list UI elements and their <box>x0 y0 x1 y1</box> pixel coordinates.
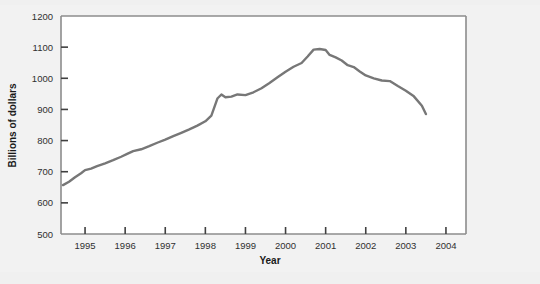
x-tick-label: 1997 <box>155 240 176 251</box>
x-tick-label: 2004 <box>435 240 456 251</box>
y-tick-label: 600 <box>37 197 53 208</box>
y-tick-label: 900 <box>37 104 53 115</box>
y-tick-label: 1000 <box>32 73 53 84</box>
y-tick-label: 500 <box>37 229 53 240</box>
y-tick-label: 1200 <box>32 11 53 22</box>
y-tick-label: 700 <box>37 166 53 177</box>
x-axis-tick-labels: 1995199619971998199920002001200220032004 <box>74 240 456 251</box>
x-tick-label: 1995 <box>74 240 95 251</box>
x-tick-label: 2003 <box>395 240 416 251</box>
chart-figure: 500600700800900100011001200 199519961997… <box>0 0 540 284</box>
x-tick-label: 1998 <box>195 240 216 251</box>
x-tick-label: 1999 <box>235 240 256 251</box>
y-tick-label: 800 <box>37 135 53 146</box>
plot-area-background <box>61 16 466 234</box>
y-axis-label-text: Billions of dollars <box>8 83 19 167</box>
x-axis-label-text: Year <box>0 255 540 266</box>
y-axis-label: Billions of dollars <box>2 0 24 250</box>
y-axis-tick-labels: 500600700800900100011001200 <box>32 11 53 240</box>
x-tick-label: 2002 <box>355 240 376 251</box>
y-tick-label: 1100 <box>33 42 53 53</box>
line-chart: 500600700800900100011001200 199519961997… <box>0 0 540 284</box>
x-tick-label: 2001 <box>315 240 336 251</box>
x-tick-label: 2000 <box>275 240 296 251</box>
x-tick-label: 1996 <box>115 240 136 251</box>
